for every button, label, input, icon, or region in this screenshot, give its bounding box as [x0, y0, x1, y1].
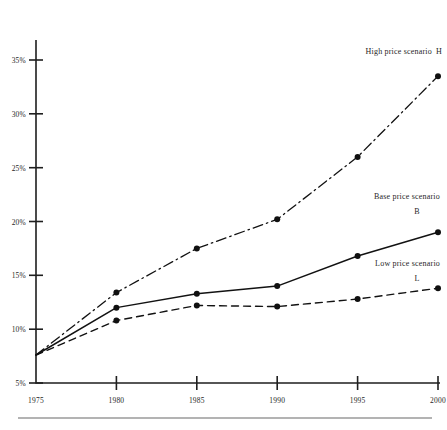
- x-tick-label-1990: 1990: [269, 396, 285, 405]
- data-point-h-2000: [435, 73, 441, 79]
- x-tick-label-1985: 1985: [189, 396, 205, 405]
- x-axis-labels: 1975 1980 1985 1990 1995 2000: [28, 396, 446, 405]
- series-line-h: [36, 76, 438, 355]
- y-tick-label-10: 10%: [12, 325, 26, 334]
- annotation-low-label: Low price scenario: [375, 259, 440, 268]
- data-point-h-1995: [355, 154, 361, 160]
- data-point-h-1980: [113, 290, 119, 296]
- data-point-b-1980: [113, 305, 119, 311]
- data-point-l-1995: [355, 296, 361, 302]
- series-line-l: [36, 288, 438, 355]
- data-point-h-1990: [274, 216, 280, 222]
- annotation-base-key: B: [414, 207, 420, 216]
- data-point-l-2000: [435, 285, 441, 291]
- data-point-l-1985: [194, 302, 200, 308]
- data-point-h-1985: [194, 245, 200, 251]
- series-line-b: [36, 232, 438, 355]
- series-annotations: High price scenario H Base price scenari…: [366, 47, 442, 283]
- chart-figure: 5% 10% 15% 20% 25% 30% 35% 1975 1980 198…: [0, 0, 447, 430]
- annotation-base-label: Base price scenario: [374, 192, 440, 201]
- data-point-b-2000: [435, 229, 441, 235]
- data-point-b-1995: [355, 253, 361, 259]
- data-point-l-1980: [113, 318, 119, 324]
- x-tick-label-1975: 1975: [28, 396, 44, 405]
- x-tick-label-1995: 1995: [350, 396, 366, 405]
- y-axis-labels: 5% 10% 15% 20% 25% 30% 35%: [12, 56, 26, 388]
- series-plot-layer: [36, 73, 441, 355]
- annotation-high-key: H: [436, 47, 442, 56]
- annotation-high-label: High price scenario: [366, 47, 432, 56]
- y-tick-label-30: 30%: [12, 110, 26, 119]
- data-point-l-1990: [274, 304, 280, 310]
- x-tick-label-2000: 2000: [430, 396, 446, 405]
- y-tick-label-20: 20%: [12, 218, 26, 227]
- y-tick-label-25: 25%: [12, 164, 26, 173]
- line-chart-svg: 5% 10% 15% 20% 25% 30% 35% 1975 1980 198…: [0, 0, 447, 430]
- y-tick-label-5: 5%: [16, 379, 26, 388]
- annotation-low-key: L: [414, 274, 419, 283]
- x-tick-label-1980: 1980: [108, 396, 124, 405]
- data-point-b-1985: [194, 291, 200, 297]
- data-point-b-1990: [274, 283, 280, 289]
- y-tick-label-15: 15%: [12, 271, 26, 280]
- y-tick-label-35: 35%: [12, 56, 26, 65]
- chart-axes: [36, 40, 440, 383]
